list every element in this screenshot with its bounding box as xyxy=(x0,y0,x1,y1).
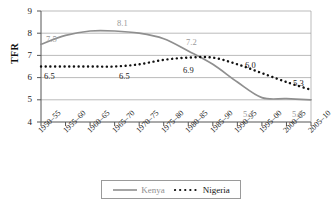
data-label-nigeria-5.3: 5.3 xyxy=(293,79,304,88)
data-label-kenya-7.5: 7.5 xyxy=(46,35,57,44)
data-label-nigeria-6.9: 6.9 xyxy=(183,66,194,75)
data-label-nigeria-6.0: 6.0 xyxy=(245,61,256,70)
axis-lines xyxy=(41,11,311,122)
legend-entry-nigeria: Nigeria xyxy=(174,185,230,195)
data-label-nigeria-6.5: 6.5 xyxy=(119,72,130,81)
y-tick-4: 4 xyxy=(20,118,32,127)
data-label-kenya-5.1: 5.1 xyxy=(243,110,254,119)
y-tick-6: 6 xyxy=(20,73,32,82)
tfr-line-chart: TFR 456789 1950–551955–601960–651965–701… xyxy=(0,0,333,208)
legend-entry-kenya: Kenya xyxy=(112,185,165,195)
y-tick-8: 8 xyxy=(20,29,32,38)
y-tick-5: 5 xyxy=(20,95,32,104)
series-line-nigeria xyxy=(41,57,311,90)
data-label-nigeria-6.5: 6.5 xyxy=(44,72,55,81)
data-label-kenya-5.0: 5.0 xyxy=(292,110,303,119)
y-axis-title: TFR xyxy=(9,43,20,65)
chart-legend: Kenya Nigeria xyxy=(101,180,241,199)
legend-label-kenya: Kenya xyxy=(141,185,165,195)
data-label-kenya-7.2: 7.2 xyxy=(186,38,197,47)
gridlines xyxy=(41,11,311,100)
kenya-line-swatch-icon xyxy=(112,186,138,194)
legend-label-nigeria: Nigeria xyxy=(203,185,230,195)
nigeria-dotted-swatch-icon xyxy=(174,186,200,194)
series-line-kenya xyxy=(41,31,311,100)
y-tick-7: 7 xyxy=(20,51,32,60)
chart-canvas xyxy=(0,0,333,208)
y-tick-9: 9 xyxy=(20,7,32,16)
data-label-kenya-8.1: 8.1 xyxy=(117,19,128,28)
plot-area: TFR 456789 1950–551955–601960–651965–701… xyxy=(0,0,333,208)
